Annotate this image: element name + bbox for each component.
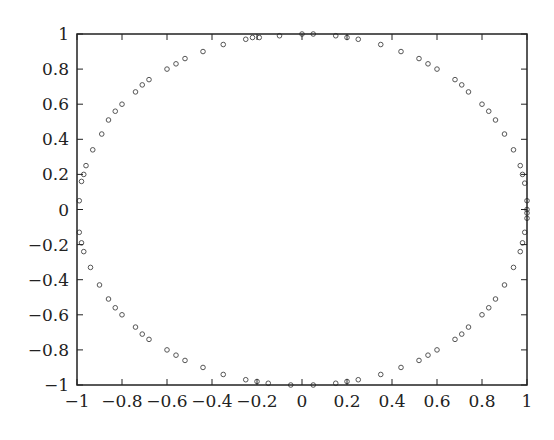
y-tick-label: −0.6 bbox=[28, 305, 69, 325]
data-point bbox=[399, 49, 404, 54]
data-point bbox=[165, 348, 170, 353]
data-point bbox=[453, 77, 458, 82]
y-tick-label: −1 bbox=[44, 375, 69, 395]
data-point bbox=[90, 148, 95, 153]
data-point bbox=[417, 56, 422, 61]
data-point bbox=[106, 118, 111, 123]
data-point bbox=[257, 35, 262, 40]
data-point bbox=[250, 35, 255, 40]
data-point bbox=[97, 283, 102, 288]
data-point bbox=[113, 305, 118, 310]
data-point bbox=[140, 332, 145, 337]
data-point bbox=[113, 109, 118, 114]
x-tick-label: −0.8 bbox=[101, 391, 142, 411]
data-point bbox=[243, 37, 248, 42]
data-point bbox=[426, 62, 431, 67]
data-point bbox=[243, 377, 248, 382]
plot-frame bbox=[77, 34, 527, 385]
data-point bbox=[356, 37, 361, 42]
data-point bbox=[88, 265, 93, 270]
x-tick-label: −0.2 bbox=[236, 391, 277, 411]
y-axis: 10.80.60.40.20−0.2−0.4−0.6−0.8−1 bbox=[28, 24, 527, 395]
data-point bbox=[147, 77, 152, 82]
data-point bbox=[147, 337, 152, 342]
data-point bbox=[399, 365, 404, 370]
data-point bbox=[480, 313, 485, 318]
data-point bbox=[201, 49, 206, 54]
data-point bbox=[378, 372, 383, 377]
data-point bbox=[221, 372, 226, 377]
data-point bbox=[99, 132, 104, 137]
data-point bbox=[493, 118, 498, 123]
data-point bbox=[435, 348, 440, 353]
data-point bbox=[120, 102, 125, 107]
data-point bbox=[453, 337, 458, 342]
y-tick-label: 0.6 bbox=[42, 94, 69, 114]
y-tick-label: 0 bbox=[58, 200, 69, 220]
x-tick-label: 0.8 bbox=[468, 391, 495, 411]
x-tick-label: 0.2 bbox=[333, 391, 360, 411]
data-point bbox=[120, 313, 125, 318]
data-point bbox=[417, 358, 422, 363]
y-tick-label: 0.8 bbox=[42, 59, 69, 79]
x-tick-label: 0.4 bbox=[378, 391, 405, 411]
data-point bbox=[502, 283, 507, 288]
y-tick-label: −0.4 bbox=[28, 270, 69, 290]
data-point bbox=[81, 249, 86, 254]
x-tick-label: −0.4 bbox=[191, 391, 232, 411]
data-point bbox=[518, 163, 523, 168]
data-point bbox=[518, 249, 523, 254]
x-axis: −1−0.8−0.6−0.4−0.200.20.40.60.81 bbox=[64, 34, 532, 411]
data-point bbox=[356, 377, 361, 382]
data-point bbox=[459, 83, 464, 88]
y-tick-label: −0.2 bbox=[28, 235, 69, 255]
data-point bbox=[378, 42, 383, 47]
data-point bbox=[201, 365, 206, 370]
data-point bbox=[84, 163, 89, 168]
data-point bbox=[174, 62, 179, 67]
data-point bbox=[459, 332, 464, 337]
data-point bbox=[466, 325, 471, 330]
data-point bbox=[79, 179, 84, 184]
data-point bbox=[426, 353, 431, 358]
x-tick-label: −0.6 bbox=[146, 391, 187, 411]
data-point bbox=[165, 67, 170, 72]
data-point bbox=[511, 148, 516, 153]
scatter-chart: −1−0.8−0.6−0.4−0.200.20.40.60.81 10.80.6… bbox=[0, 0, 554, 440]
data-point bbox=[493, 297, 498, 302]
data-point bbox=[174, 353, 179, 358]
data-point bbox=[511, 265, 516, 270]
data-point bbox=[133, 90, 138, 95]
data-point bbox=[502, 132, 507, 137]
data-point bbox=[486, 109, 491, 114]
data-points bbox=[77, 32, 529, 388]
y-tick-label: 0.2 bbox=[42, 164, 69, 184]
data-point bbox=[480, 102, 485, 107]
x-tick-label: 0.6 bbox=[423, 391, 450, 411]
data-point bbox=[140, 83, 145, 88]
data-point bbox=[221, 42, 226, 47]
data-point bbox=[183, 358, 188, 363]
data-point bbox=[466, 90, 471, 95]
x-tick-label: 1 bbox=[522, 391, 533, 411]
data-point bbox=[486, 305, 491, 310]
y-tick-label: 1 bbox=[58, 24, 69, 44]
x-tick-label: 0 bbox=[297, 391, 308, 411]
y-tick-label: −0.8 bbox=[28, 340, 69, 360]
data-point bbox=[435, 67, 440, 72]
y-tick-label: 0.4 bbox=[42, 129, 69, 149]
data-point bbox=[133, 325, 138, 330]
data-point bbox=[183, 56, 188, 61]
data-point bbox=[106, 297, 111, 302]
